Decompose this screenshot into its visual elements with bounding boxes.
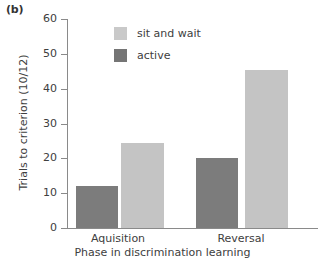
- legend-item-active[interactable]: active: [114, 44, 201, 66]
- y-tick-label-10: 10: [17, 187, 57, 198]
- legend-label-sit-and-wait: sit and wait: [137, 27, 201, 40]
- y-tick-label-20: 20: [17, 152, 57, 163]
- legend-swatch-icon-active: [114, 49, 127, 62]
- y-tick-label-30: 30: [17, 118, 57, 129]
- y-tick-mark-10: [61, 193, 67, 194]
- figure-panel-b: (b) Trials to criterion (10/12) 60 50 40…: [0, 0, 325, 262]
- y-tick-mark-0: [61, 228, 67, 229]
- y-tick-mark-20: [61, 158, 67, 159]
- legend-item-sit-and-wait[interactable]: sit and wait: [114, 22, 201, 44]
- y-tick-label-0: 0: [17, 222, 57, 233]
- legend: sit and wait active: [114, 22, 201, 66]
- bar-acquisition-sit-and-wait[interactable]: [121, 143, 164, 228]
- x-tick-label-reversal: Reversal: [196, 232, 286, 245]
- y-tick-mark-50: [61, 54, 67, 55]
- bar-acquisition-active[interactable]: [76, 186, 118, 228]
- legend-swatch-icon-sit-and-wait: [114, 27, 127, 40]
- y-tick-label-60: 60: [17, 13, 57, 24]
- x-tick-label-aquisition: Aquisition: [68, 232, 168, 245]
- y-tick-mark-60: [61, 19, 67, 20]
- y-tick-mark-40: [61, 89, 67, 90]
- legend-label-active: active: [137, 49, 170, 62]
- bar-reversal-active[interactable]: [196, 158, 238, 228]
- y-tick-mark-30: [61, 124, 67, 125]
- y-tick-label-50: 50: [17, 48, 57, 59]
- x-axis-line: [67, 228, 318, 229]
- x-axis-title: Phase in discrimination learning: [0, 246, 325, 259]
- bar-reversal-sit-and-wait[interactable]: [245, 70, 288, 228]
- y-tick-label-40: 40: [17, 83, 57, 94]
